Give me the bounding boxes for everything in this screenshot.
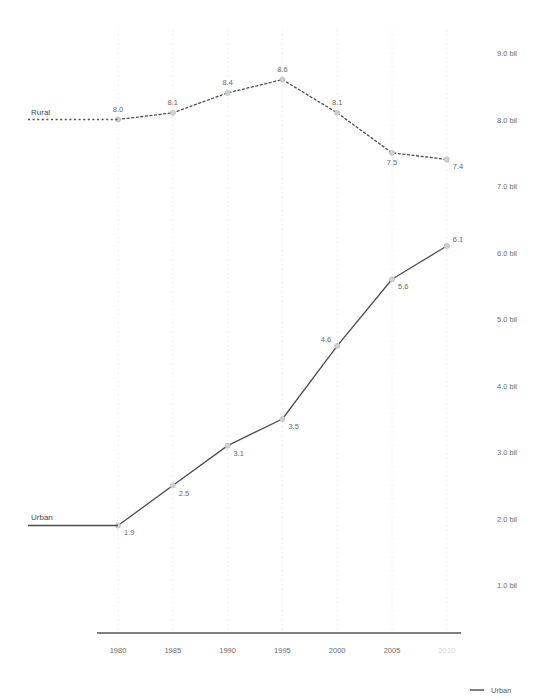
point-label-rural-2010: 7.4: [453, 162, 463, 171]
point-label-rural-1980: 8.0: [113, 105, 123, 114]
y-tick-1-0-bil: 1.0 bil: [497, 581, 517, 590]
y-tick-6-0-bil: 6.0 bil: [497, 249, 517, 258]
point-label-rural-1990: 8.4: [222, 78, 232, 87]
y-tick-8-0-bil: 8.0 bil: [497, 116, 517, 125]
data-point-urban-2005: [389, 277, 394, 282]
y-tick-5-0-bil: 5.0 bil: [497, 315, 517, 324]
point-label-rural-1985: 8.1: [168, 98, 178, 107]
y-tick-9-0-bil: 9.0 bil: [497, 49, 517, 58]
point-label-urban-1980: 1.9: [124, 528, 134, 537]
x-tick-1990: 1990: [219, 646, 236, 655]
point-label-urban-1985: 2.5: [179, 489, 189, 498]
data-point-urban-1990: [225, 443, 230, 448]
point-label-urban-2010: 6.1: [453, 235, 463, 244]
data-point-rural-2000: [335, 110, 340, 115]
data-point-rural-2005: [389, 150, 394, 155]
data-point-urban-2000: [335, 343, 340, 348]
data-point-rural-2010: [444, 157, 449, 162]
x-tick-2010: 2010: [438, 646, 455, 655]
y-tick-7-0-bil: 7.0 bil: [497, 182, 517, 191]
x-tick-1985: 1985: [164, 646, 181, 655]
y-axis-tick-labels: 1.0 bil2.0 bil3.0 bil4.0 bil5.0 bil6.0 b…: [497, 49, 517, 590]
point-label-urban-1990: 3.1: [234, 449, 244, 458]
chart-legend: Urban: [470, 686, 511, 695]
y-tick-3-0-bil: 3.0 bil: [497, 448, 517, 457]
data-point-urban-1985: [170, 483, 175, 488]
point-label-urban-2000: 4.6: [321, 335, 331, 344]
x-tick-1980: 1980: [110, 646, 127, 655]
y-tick-2-0-bil: 2.0 bil: [497, 515, 517, 524]
series-group: [115, 77, 449, 528]
legend-label-urban: Urban: [491, 686, 511, 695]
data-point-urban-1995: [280, 416, 285, 421]
x-axis-tick-labels: 1980198519901995200020052010: [110, 646, 455, 655]
point-label-rural-2005: 7.5: [387, 158, 397, 167]
series-label-rural: Rural: [31, 108, 50, 117]
x-tick-1995: 1995: [274, 646, 291, 655]
data-point-urban-2010: [444, 243, 449, 248]
data-point-rural-1995: [280, 77, 285, 82]
gridlines-group: [118, 30, 447, 633]
data-point-labels: 8.08.18.48.68.17.57.41.92.53.13.54.65.66…: [113, 65, 463, 538]
point-label-urban-1995: 3.5: [288, 422, 298, 431]
x-tick-2000: 2000: [329, 646, 346, 655]
line-chart: 1.0 bil2.0 bil3.0 bil4.0 bil5.0 bil6.0 b…: [0, 0, 542, 698]
data-point-rural-1985: [170, 110, 175, 115]
point-label-urban-2005: 5.6: [398, 282, 408, 291]
point-label-rural-1995: 8.6: [277, 65, 287, 74]
x-tick-2005: 2005: [384, 646, 401, 655]
y-tick-4-0-bil: 4.0 bil: [497, 382, 517, 391]
chart-canvas: 1.0 bil2.0 bil3.0 bil4.0 bil5.0 bil6.0 b…: [0, 0, 542, 698]
series-label-urban: Urban: [31, 513, 53, 522]
inline-series-labels: RuralUrban: [28, 108, 118, 526]
point-label-rural-2000: 8.1: [332, 98, 342, 107]
data-point-rural-1990: [225, 90, 230, 95]
